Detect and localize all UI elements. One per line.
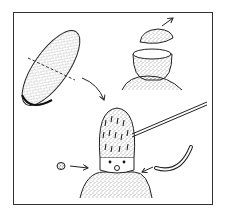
craft-illustration [0,0,227,220]
cup-on-body [122,49,182,90]
eye-icon [123,161,126,164]
lid [140,29,173,43]
arrow-icon [82,78,104,100]
arrow-icon [70,166,88,168]
arrow-icon [162,18,173,26]
nose-icon [115,166,120,171]
body [80,172,152,198]
eye-icon [109,161,112,164]
egg-halved [12,22,90,114]
nose-ball [57,163,65,170]
head-with-stick [99,108,134,173]
arrow-icon [142,167,153,172]
stick [132,102,207,137]
